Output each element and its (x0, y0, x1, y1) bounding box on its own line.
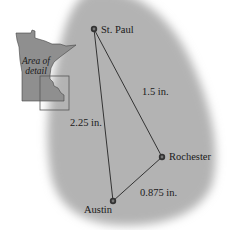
city-dot-st-paul (91, 26, 97, 32)
distance-label-stpaul-austin: 2.25 in. (70, 118, 102, 129)
map-diagram: Area of detail St. Paul Rochester Austin… (0, 0, 227, 230)
inset-label-line2: detail (14, 67, 58, 77)
city-dot-rochester (159, 154, 165, 160)
city-label-austin: Austin (84, 205, 112, 216)
city-label-st-paul: St. Paul (101, 25, 134, 36)
city-label-rochester: Rochester (169, 152, 211, 163)
distance-label-stpaul-rochester: 1.5 in. (142, 87, 169, 98)
inset-label: Area of detail (14, 57, 58, 77)
distance-label-rochester-austin: 0.875 in. (140, 188, 177, 199)
